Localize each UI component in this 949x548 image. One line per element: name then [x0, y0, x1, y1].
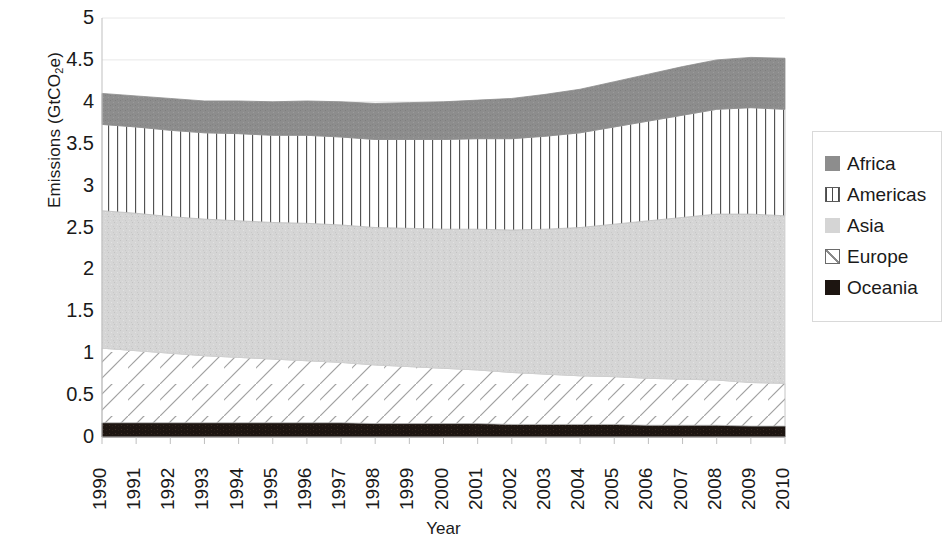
- x-axis-tick-label: 2010: [773, 430, 792, 510]
- x-axis-tick-label: 1999: [397, 430, 416, 510]
- x-axis-tick-label: 2003: [534, 430, 553, 510]
- x-axis-tick-label: 1993: [192, 430, 211, 510]
- legend-item-asia[interactable]: Asia: [825, 210, 941, 241]
- legend-label: Americas: [847, 185, 926, 204]
- x-axis-tick-label: 1990: [90, 430, 109, 510]
- x-axis-tick-label: 2008: [705, 430, 724, 510]
- x-axis-tick-label: 1998: [363, 430, 382, 510]
- x-axis-tick-label: 1992: [158, 430, 177, 510]
- chart-legend: AfricaAmericasAsiaEuropeOceania: [812, 131, 942, 322]
- x-axis-tick-label: 1997: [329, 430, 348, 510]
- x-axis-tick-label: 2001: [466, 430, 485, 510]
- stacked-area-chart: Emissions (GtCO2e) 54.543.532.521.510.50: [0, 0, 949, 548]
- x-axis-tick-label: 2002: [500, 430, 519, 510]
- legend-item-europe[interactable]: Europe: [825, 241, 941, 272]
- legend-item-africa[interactable]: Africa: [825, 148, 941, 179]
- area-series-group: [102, 57, 785, 437]
- x-axis-tick-label: 2004: [568, 430, 587, 510]
- legend-label: Europe: [847, 247, 908, 266]
- legend-label: Oceania: [847, 278, 918, 297]
- x-axis-title: Year: [102, 519, 785, 539]
- x-axis-tick-label: 2000: [432, 430, 451, 510]
- x-axis-tick-label: 2007: [671, 430, 690, 510]
- x-axis-tick-label: 1994: [227, 430, 246, 510]
- legend-swatch-asia-icon: [825, 218, 840, 233]
- x-axis-tick-label: 1991: [124, 430, 143, 510]
- x-axis-tick-label: 1996: [295, 430, 314, 510]
- x-axis-tick-label: 2006: [636, 430, 655, 510]
- x-axis-tick-label: 2005: [602, 430, 621, 510]
- legend-label: Asia: [847, 216, 884, 235]
- legend-item-americas[interactable]: Americas: [825, 179, 941, 210]
- x-axis-tick-label: 1995: [261, 430, 280, 510]
- legend-swatch-africa-icon: [825, 156, 840, 171]
- x-axis-tick-label: 2009: [739, 430, 758, 510]
- legend-swatch-americas-icon: [825, 187, 840, 202]
- legend-swatch-europe-icon: [825, 249, 840, 264]
- legend-item-oceania[interactable]: Oceania: [825, 272, 941, 303]
- legend-label: Africa: [847, 154, 896, 173]
- legend-swatch-oceania-icon: [825, 280, 840, 295]
